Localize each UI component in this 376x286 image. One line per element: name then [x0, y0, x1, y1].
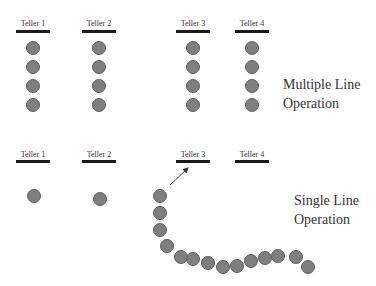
arrow-layer [0, 0, 376, 286]
arrow-icon [170, 168, 188, 185]
